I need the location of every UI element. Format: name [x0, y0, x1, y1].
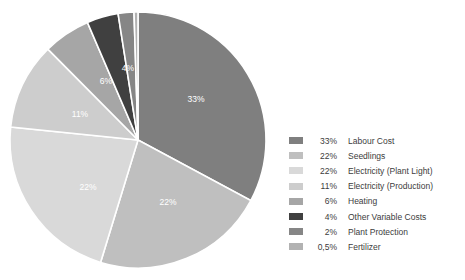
legend-item-percent: 11%: [303, 181, 342, 191]
legend-color-swatch: [289, 152, 303, 159]
pie-slice-group: [10, 12, 266, 268]
legend-item-percent: 4%: [303, 212, 342, 222]
legend-item[interactable]: 2%Plant Protection: [289, 224, 465, 239]
legend-item-label: Labour Cost: [342, 136, 465, 146]
legend-item-label: Seedlings: [342, 151, 465, 161]
pie-slice-value-label: 22%: [79, 182, 96, 192]
pie-slice-value-label: 4%: [122, 63, 135, 73]
legend-item-label: Other Variable Costs: [342, 212, 465, 222]
legend-item[interactable]: 33%Labour Cost: [289, 133, 465, 148]
legend-item-label: Plant Protection: [342, 227, 465, 237]
pie-slice-value-label: 11%: [72, 109, 89, 119]
legend-item-percent: 22%: [303, 151, 342, 161]
pie-chart-figure: 33%22%22%11%6%4% 33%Labour Cost22%Seedli…: [0, 0, 465, 280]
legend-item-percent: 22%: [303, 166, 342, 176]
legend-color-swatch: [289, 167, 303, 174]
legend-color-swatch: [289, 137, 303, 144]
pie-chart-svg: 33%22%22%11%6%4%: [0, 0, 280, 280]
legend-item-percent: 2%: [303, 227, 342, 237]
legend-item-label: Fertilizer: [342, 242, 465, 252]
chart-legend: 33%Labour Cost22%Seedlings22%Electricity…: [289, 133, 465, 255]
legend-item-percent: 0,5%: [303, 242, 342, 252]
legend-item-label: Electricity (Plant Light): [342, 166, 465, 176]
pie-slice-value-label: 33%: [187, 94, 204, 104]
pie-slice-value-label: 22%: [159, 197, 176, 207]
legend-item-percent: 33%: [303, 136, 342, 146]
legend-color-swatch: [289, 243, 303, 250]
legend-item[interactable]: 4%Other Variable Costs: [289, 209, 465, 224]
legend-color-swatch: [289, 213, 303, 220]
legend-item[interactable]: 22%Electricity (Plant Light): [289, 163, 465, 178]
legend-item-label: Electricity (Production): [342, 181, 465, 191]
legend-item-percent: 6%: [303, 196, 342, 206]
pie-slice-value-label: 6%: [100, 76, 113, 86]
pie-chart-plot-area: 33%22%22%11%6%4%: [0, 0, 280, 280]
legend-color-swatch: [289, 183, 303, 190]
legend-item[interactable]: 11%Electricity (Production): [289, 179, 465, 194]
legend-color-swatch: [289, 228, 303, 235]
legend-item[interactable]: 0,5%Fertilizer: [289, 239, 465, 254]
legend-color-swatch: [289, 198, 303, 205]
legend-item[interactable]: 6%Heating: [289, 194, 465, 209]
legend-item-label: Heating: [342, 196, 465, 206]
legend-item[interactable]: 22%Seedlings: [289, 148, 465, 163]
